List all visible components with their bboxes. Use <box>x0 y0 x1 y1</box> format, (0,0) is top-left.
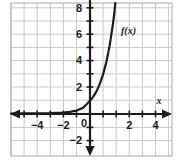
y-tick-label--2: −2 <box>69 134 82 146</box>
curve-label: f(x) <box>121 25 136 37</box>
x-tick-label-2: 2 <box>126 119 132 131</box>
y-tick-label-4: 4 <box>76 54 83 66</box>
exponential-function-graph: −4 −2 2 4 0 8 6 4 2 −2 f(x) x <box>0 0 178 164</box>
x-tick-label-4: 4 <box>152 119 159 131</box>
x-tick-label--4: −4 <box>31 119 44 131</box>
y-tick-label-2: 2 <box>76 81 82 93</box>
origin-label: 0 <box>81 117 87 129</box>
graph-canvas: −4 −2 2 4 0 8 6 4 2 −2 f(x) x <box>0 0 178 164</box>
y-tick-label-8: 8 <box>76 2 82 14</box>
y-tick-label-6: 6 <box>76 28 82 40</box>
x-axis-label: x <box>156 95 162 106</box>
x-tick-label--2: −2 <box>57 119 70 131</box>
